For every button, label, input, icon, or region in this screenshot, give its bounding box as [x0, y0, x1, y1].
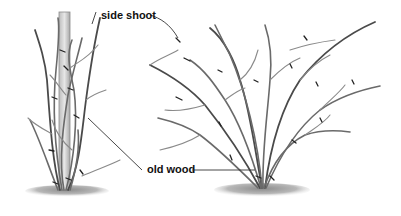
label-side-shoot: side shoot	[101, 9, 156, 21]
staked-plant	[25, 12, 120, 197]
label-old-wood: old wood	[147, 163, 195, 175]
pruning-diagram	[0, 0, 401, 216]
wooden-stake	[59, 12, 70, 190]
side-shoot-leader-left	[92, 12, 96, 24]
